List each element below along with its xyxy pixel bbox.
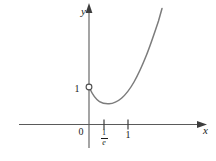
origin-label: 0 bbox=[76, 127, 86, 137]
x-tick-label-inverse-e: 1 e bbox=[97, 129, 111, 148]
y-tick-label-one: 1 bbox=[72, 84, 82, 94]
x-tick-label-one: 1 bbox=[123, 130, 133, 140]
open-point-marker-icon bbox=[86, 84, 92, 90]
curve-x-to-the-x bbox=[90, 9, 162, 104]
function-graph-figure: y x 1 0 1 e 1 bbox=[0, 0, 216, 161]
x-axis-label: x bbox=[203, 125, 208, 136]
fraction-denominator: e bbox=[102, 139, 106, 147]
y-axis-label: y bbox=[81, 6, 86, 17]
y-axis-arrow-icon bbox=[86, 3, 93, 13]
fraction-numerator: 1 bbox=[102, 129, 106, 137]
